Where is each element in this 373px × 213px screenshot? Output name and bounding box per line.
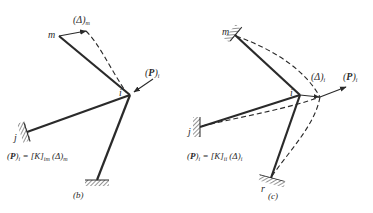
node-label-m: m [222, 27, 229, 37]
displacement-arrow-m [59, 31, 86, 36]
member-i-r [271, 95, 300, 178]
formula-eq: = [20, 151, 31, 161]
delta-i-sub: i [324, 77, 326, 83]
p-i-sub: i [356, 77, 358, 83]
formula-delta-sub: m [63, 156, 67, 162]
panel-b [17, 31, 153, 186]
caption-c: (c) [268, 192, 278, 201]
stiffness-formula-b: (P)i = [K]im (Δ)m [7, 152, 68, 162]
member-i-support [97, 95, 130, 180]
deflected-shape-m-i [86, 31, 126, 92]
delta-m-main: (Δ) [73, 14, 86, 25]
fixed-support-j [193, 117, 200, 137]
delta-i-label: (Δ)i [311, 72, 325, 83]
load-arrow-p-i [134, 79, 153, 92]
load-arrow-p-i [320, 87, 346, 97]
displacement-arrow-i [300, 95, 319, 97]
formula-k-main: [K] [31, 151, 44, 161]
formula-k-main: [K] [211, 151, 224, 161]
deflected-shape-j [202, 97, 320, 126]
node-label-i: i [119, 88, 122, 98]
node-label-j: j [14, 133, 17, 143]
member-m-i [235, 35, 300, 95]
p-i-label: (P)i [145, 68, 159, 79]
member-j-i [27, 95, 130, 132]
panel-c [193, 25, 346, 188]
node-label-j: j [188, 127, 191, 137]
p-i-sub: i [158, 73, 160, 79]
stiffness-formula-c: (P)i = [K]ii (Δ)i [187, 152, 242, 162]
node-label-m: m [48, 30, 55, 40]
delta-i-main: (Δ) [311, 71, 324, 82]
p-i-label: (P)i [343, 72, 357, 83]
deflected-shape-m [236, 36, 320, 97]
node-label-i: i [290, 88, 293, 98]
formula-delta-main: (Δ) [50, 151, 64, 161]
delta-m-sub: m [86, 20, 90, 26]
formula-delta-main: (Δ) [227, 151, 241, 161]
formula-delta-sub: i [241, 156, 243, 162]
formula-eq: = [200, 151, 211, 161]
member-j-i [200, 95, 300, 127]
node-label-r: r [261, 184, 265, 194]
fixed-support-bottom [85, 180, 109, 186]
caption-b: (b) [73, 191, 84, 200]
structural-frame-diagram [0, 0, 373, 213]
delta-m-label: (Δ)m [73, 15, 90, 26]
